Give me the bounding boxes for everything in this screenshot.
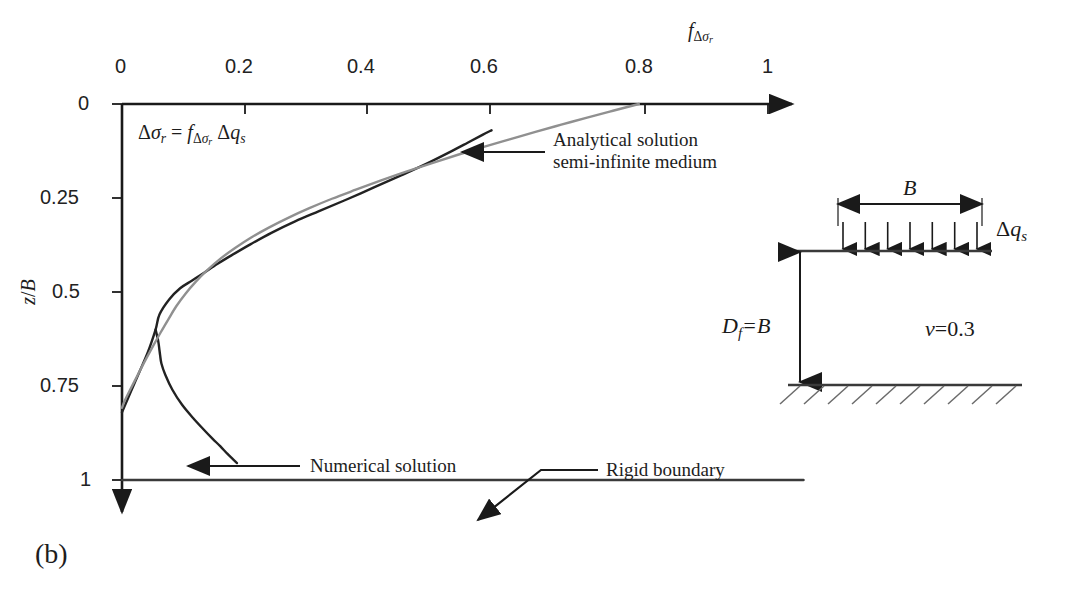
analytical-annotation: Analytical solution semi-infinite medium (553, 130, 717, 171)
inset-load-delta: Δ (996, 216, 1010, 241)
rigid-leader-arrow (478, 470, 598, 520)
inset-load-arrows (843, 222, 977, 249)
numerical-annotation: Numerical solution (310, 456, 456, 475)
inset-hatch-line (804, 386, 824, 404)
inset-depth-eq: =B (742, 313, 770, 338)
plot-area (0, 0, 1066, 599)
inset-load-q: q (1010, 216, 1021, 241)
inset-hatch-line (948, 386, 968, 404)
curve-numerical-solution (122, 130, 492, 412)
inset-poisson-label: ν=0.3 (925, 318, 975, 340)
inset-load-label: Δqs (996, 218, 1027, 244)
inset-hatch-line (780, 386, 800, 404)
foundation-inset-diagram (780, 198, 1022, 404)
inset-hatch-line (852, 386, 872, 404)
inset-hatching (780, 386, 1016, 404)
inset-hatch-line (972, 386, 992, 404)
numerical-annotation-line1: Numerical solution (310, 456, 456, 475)
x-axis-ticks (122, 104, 768, 114)
inset-hatch-line (996, 386, 1016, 404)
inset-load-sub: s (1021, 228, 1027, 244)
analytical-annotation-line2: semi-infinite medium (553, 152, 717, 171)
inset-poisson-nu: ν (925, 316, 935, 341)
inset-width-label-text: B (903, 175, 916, 200)
y-axis-ticks (112, 104, 122, 480)
inset-depth-D: D (722, 313, 738, 338)
rigid-boundary-annotation: Rigid boundary (606, 460, 725, 479)
inset-hatch-line (828, 386, 848, 404)
inset-poisson-eq: =0.3 (935, 316, 975, 341)
figure-panel-b: fΔσr 0 0.2 0.4 0.6 0.8 1 0 0.25 0.5 0.75… (0, 0, 1066, 599)
analytical-annotation-line1: Analytical solution (553, 130, 717, 149)
inset-hatch-line (876, 386, 896, 404)
inset-hatch-line (924, 386, 944, 404)
rigid-boundary-annotation-line1: Rigid boundary (606, 460, 725, 479)
panel-label: (b) (35, 540, 68, 568)
curve-numerical-solution-lower-branch (156, 330, 237, 463)
inset-width-label: B (903, 177, 916, 199)
inset-depth-label: Df=B (722, 315, 770, 341)
inset-hatch-line (900, 386, 920, 404)
